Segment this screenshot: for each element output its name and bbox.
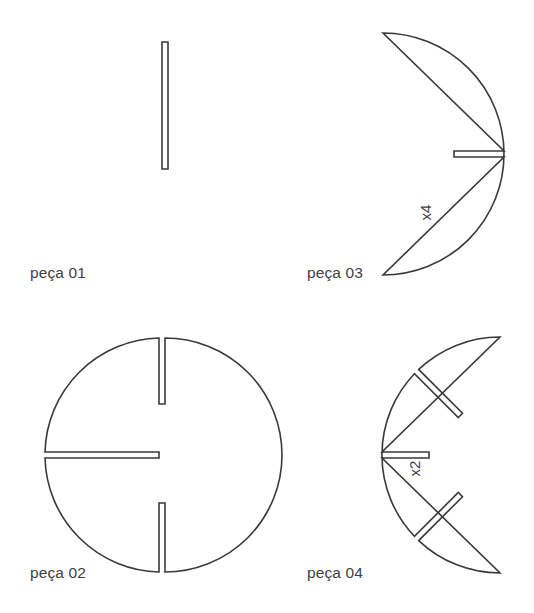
peca-04-label: peça 04 — [307, 564, 363, 582]
peca-04-quantity-label: x2 — [406, 461, 423, 477]
peca-04-outline — [0, 0, 534, 613]
peca-04-path — [382, 337, 500, 573]
piece-peca-04 — [0, 0, 534, 613]
cut-sheet-diagram: peça 01peça 02peça 03x4peça 04x2 — [0, 0, 534, 613]
